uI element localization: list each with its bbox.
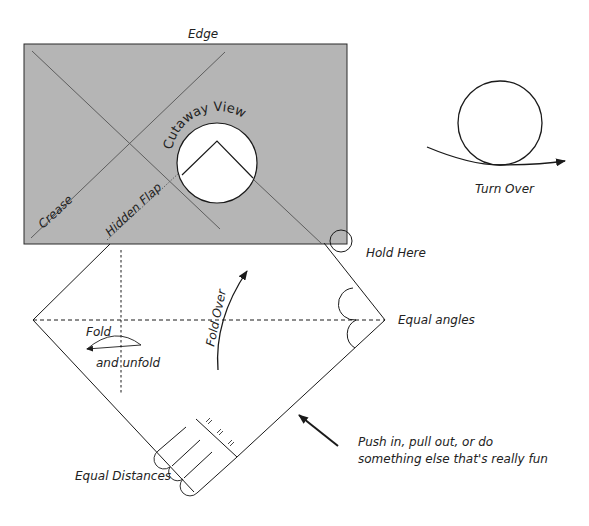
edge-label: Edge: [188, 27, 218, 41]
hold-here-label: Hold Here: [366, 246, 426, 260]
folded-flap-diamond: [33, 243, 385, 493]
turn-over-label: Turn Over: [475, 182, 535, 196]
fold-label: Fold: [86, 325, 112, 339]
origami-symbols-diagram: Edge Crease Hidden Flap Cutaway View Tur…: [0, 0, 589, 526]
turn-over-symbol: [427, 81, 565, 165]
equal-distances-marks: [154, 418, 237, 496]
equal-angles-marks: [338, 288, 356, 348]
paper-sheet: [24, 44, 352, 252]
turn-over-loop-icon: [458, 81, 542, 165]
cutaway-circle: [177, 123, 257, 203]
push-label-line1: Push in, pull out, or do: [358, 435, 493, 449]
push-label-line2: something else that's really fun: [358, 452, 548, 466]
push-arrow-icon: [299, 415, 338, 446]
equal-angles-label: Equal angles: [398, 313, 475, 327]
fold-over-label: Fold Over: [203, 287, 229, 348]
equal-distances-label: Equal Distances: [75, 469, 171, 483]
and-unfold-label: and unfold: [96, 356, 161, 370]
turn-over-arrow-icon: [427, 147, 565, 165]
